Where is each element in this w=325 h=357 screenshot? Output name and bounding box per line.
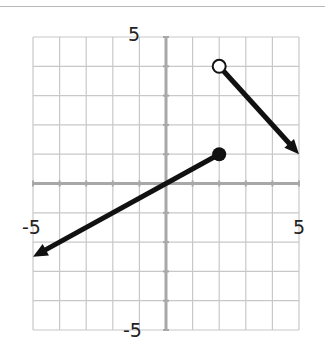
x-max-label: 5 [293, 218, 305, 237]
y-max-label: 5 [128, 25, 140, 44]
line-piece-2 [213, 60, 299, 154]
x-min-label: -5 [22, 218, 41, 237]
chart-canvas [0, 0, 325, 357]
open-dot-icon [213, 60, 226, 73]
line-piece-1 [33, 147, 226, 257]
y-min-label: -5 [123, 321, 142, 340]
closed-dot-icon [212, 147, 226, 161]
line-segment [219, 66, 292, 146]
